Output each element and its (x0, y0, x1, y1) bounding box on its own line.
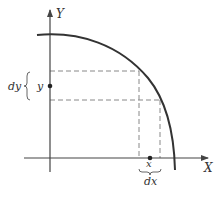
x-axis-label: X (203, 161, 213, 175)
point-x-label: x (146, 158, 152, 169)
dashed-guides (50, 71, 160, 158)
dy-brace (24, 72, 30, 100)
diagram-canvas: Y X y x dy dx (0, 0, 221, 199)
dx-label: dx (144, 175, 158, 188)
y-axis-label: Y (56, 7, 65, 21)
point-y (48, 84, 53, 89)
dy-label: dy (8, 80, 22, 93)
point-y-label: y (36, 80, 44, 93)
circle-arc-curve (37, 34, 175, 170)
